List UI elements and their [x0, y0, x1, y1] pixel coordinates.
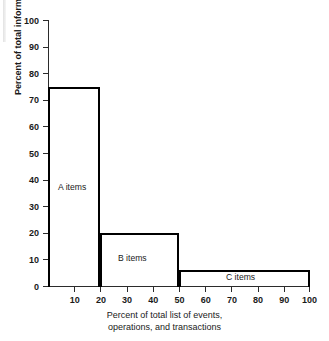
bar-label-b-items: B items	[118, 254, 147, 263]
scan-artifact	[3, 0, 6, 42]
y-tick-label-50: 50	[29, 149, 39, 158]
x-axis-title: Percent of total list of events, operati…	[0, 309, 329, 333]
x-tick-label-80: 80	[253, 296, 263, 305]
x-tick-label-90: 90	[279, 296, 289, 305]
x-tick-label-40: 40	[148, 296, 158, 305]
chart-figure: Percent of total information value 100 9…	[0, 0, 329, 341]
y-axis-title-text: Percent of total information value	[13, 0, 23, 95]
y-tick-label-90: 90	[29, 43, 39, 52]
x-axis-title-line1: Percent of total list of events,	[0, 309, 329, 321]
y-axis-title: Percent of total information value	[13, 0, 23, 95]
x-tick-label-30: 30	[122, 296, 132, 305]
y-tick-label-10: 10	[29, 255, 39, 264]
x-tick-10: 10	[74, 287, 75, 292]
x-axis-title-line2: operations, and transactions	[0, 321, 329, 333]
x-tick-20: 20	[100, 287, 101, 292]
y-tick-label-40: 40	[29, 176, 39, 185]
x-tick-90: 90	[284, 287, 285, 292]
y-tick-100: 100	[43, 20, 48, 21]
bar-label-a-items: A items	[58, 183, 86, 192]
x-tick-label-70: 70	[227, 296, 237, 305]
y-tick-80: 80	[43, 73, 48, 74]
x-tick-70: 70	[231, 287, 232, 292]
x-tick-label-50: 50	[174, 296, 184, 305]
x-tick-60: 60	[205, 287, 206, 292]
x-tick-label-10: 10	[70, 296, 80, 305]
y-tick-label-30: 30	[29, 202, 39, 211]
y-tick-label-60: 60	[29, 122, 39, 131]
y-tick-label-80: 80	[29, 69, 39, 78]
x-tick-30: 30	[127, 287, 128, 292]
x-tick-40: 40	[153, 287, 154, 292]
x-tick-label-100: 100	[302, 296, 317, 305]
x-tick-label-20: 20	[96, 296, 106, 305]
y-tick-label-100: 100	[24, 16, 39, 25]
x-tick-80: 80	[258, 287, 259, 292]
bar-label-c-items: C items	[226, 273, 255, 282]
x-tick-label-60: 60	[201, 296, 211, 305]
x-tick-50: 50	[179, 287, 180, 292]
y-tick-label-20: 20	[29, 229, 39, 238]
x-tick-100: 100	[309, 287, 310, 292]
y-tick-label-70: 70	[29, 96, 39, 105]
y-tick-label-0: 0	[34, 282, 39, 291]
y-tick-90: 90	[43, 47, 48, 48]
plot-area: 100 90 80 70 60 50 40 30 20 10 0	[48, 20, 310, 287]
